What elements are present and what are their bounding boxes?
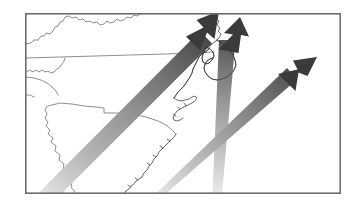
map-figure: Storm track map of the southeastern Unit… bbox=[0, 0, 361, 211]
map-canvas bbox=[0, 0, 361, 211]
